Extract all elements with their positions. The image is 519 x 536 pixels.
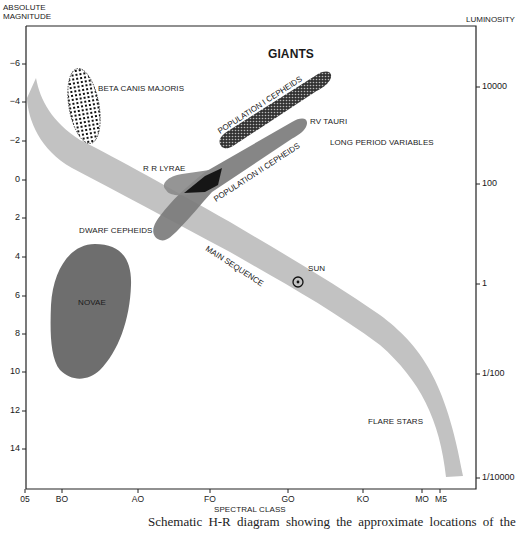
ytick-label: 0 xyxy=(2,174,20,184)
rtick-label: 1/10000 xyxy=(482,472,515,482)
ytick-label: 4 xyxy=(2,251,20,261)
ytick-label: 14 xyxy=(2,443,20,453)
x-axis-title: SPECTRAL CLASS xyxy=(214,505,286,514)
xtick-label: FO xyxy=(204,494,216,504)
rtick-label: 1/100 xyxy=(482,368,505,378)
novae-region xyxy=(51,244,131,379)
figure-caption: Schematic H-R diagram showing the approx… xyxy=(148,514,516,530)
label-giants: GIANTS xyxy=(268,47,314,61)
hr-diagram-plot: POPULATION I CEPHEIDS POPULATION II CEPH… xyxy=(0,0,519,536)
rtick-label: 1 xyxy=(482,278,487,288)
label-rv-tauri: RV TAURI xyxy=(310,117,347,126)
xtick-label: MO xyxy=(415,494,429,504)
ytick-label: 10 xyxy=(2,366,20,376)
rtick-label: 10000 xyxy=(482,81,507,91)
ytick-label: 6 xyxy=(2,290,20,300)
ytick-label: −4 xyxy=(2,96,20,106)
xtick-label: KO xyxy=(357,494,369,504)
label-novae: NOVAE xyxy=(78,298,106,307)
xtick-label: GO xyxy=(281,494,294,504)
xtick-label: M5 xyxy=(435,494,447,504)
label-beta-canis-majoris: BETA CANIS MAJORIS xyxy=(98,84,184,93)
label-flare-stars: FLARE STARS xyxy=(368,417,423,426)
label-dwarf-cepheids: DWARF CEPHEIDS xyxy=(79,226,153,235)
ytick-label: 8 xyxy=(2,328,20,338)
xtick-label: BO xyxy=(56,494,68,504)
rtick-label: 100 xyxy=(482,178,497,188)
label-long-period-variables: LONG PERIOD VARIABLES xyxy=(330,138,434,147)
xtick-label: AO xyxy=(132,494,144,504)
ytick-label: −6 xyxy=(2,58,20,68)
xtick-label: 05 xyxy=(20,494,29,504)
label-sun: SUN xyxy=(308,264,325,273)
ytick-label: 12 xyxy=(2,405,20,415)
ytick-label: 2 xyxy=(2,212,20,222)
ytick-label: −2 xyxy=(2,135,20,145)
label-rr-lyrae: R R LYRAE xyxy=(143,164,186,173)
